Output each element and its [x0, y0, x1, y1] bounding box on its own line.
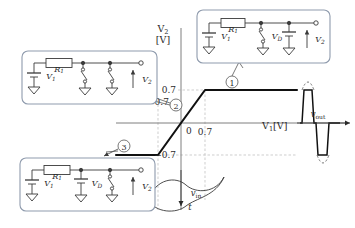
region-3-number: 3 [121, 143, 126, 152]
circuit-left: R1 V1 V2 [22, 51, 157, 104]
region-1-number: 1 [229, 79, 234, 88]
circuit-left-frame [22, 51, 157, 104]
time-axis-label: t [188, 202, 192, 212]
x-tick-label-positive: 0.7 [198, 127, 213, 137]
figure-root: V2 [V] V1[V] 0.7 −0.7 0 0.7 −0.7 1 2 3 v… [0, 0, 355, 228]
diode-clipper-figure: V2 [V] V1[V] 0.7 −0.7 0 0.7 −0.7 1 2 3 v… [0, 0, 355, 228]
y-tick-label-positive: 0.7 [162, 85, 177, 95]
y-tick-label-negative: −0.7 [154, 150, 176, 160]
circuit-top-right: R1 V1 VD V2 [197, 10, 330, 63]
circuit-bottom-left: R1 V1 VD V2 [20, 158, 155, 211]
region-2-number: 2 [173, 102, 178, 111]
origin-label: 0 [186, 126, 192, 136]
circuit-bottom-left-frame [20, 158, 155, 211]
y-axis-label-line2: [V] [156, 34, 170, 45]
